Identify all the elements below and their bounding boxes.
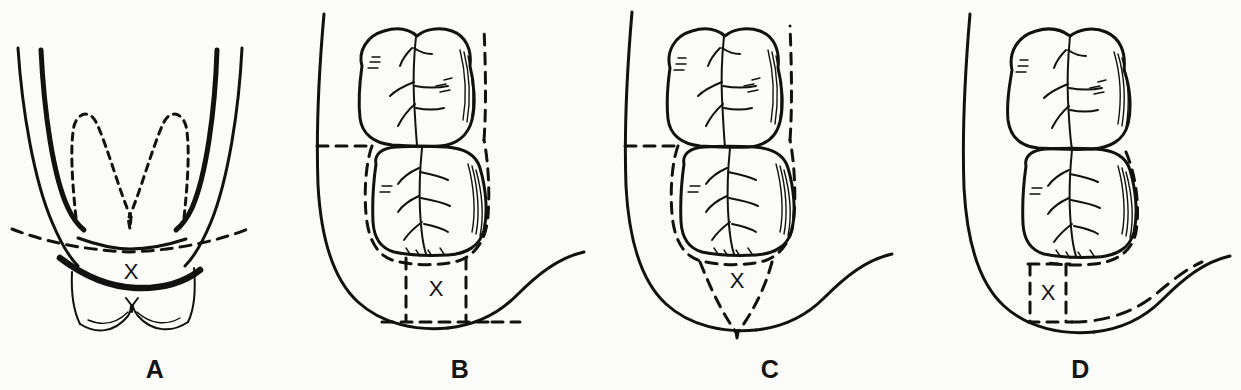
second-molar-cusp-shade-mesial (368, 57, 380, 68)
second-molar-fissure-branch-1 (708, 48, 740, 66)
panel-c: X C (610, 0, 930, 390)
mandible-inner-border-left (41, 50, 84, 230)
mandible-inner-border-right (176, 50, 217, 230)
panel-label-a: A (0, 357, 310, 382)
panel-d-artwork: X (963, 14, 1230, 333)
second-molar-cusp-shade-distal (744, 78, 760, 92)
third-molar-cusp-shade-mesial (1030, 188, 1042, 194)
second-molar-cusp-shade-mesial (674, 58, 686, 70)
third-molar-cusp-shade-mesial (380, 186, 392, 192)
panel-a-artwork: X (12, 48, 248, 330)
mandible-inferior-buccal-border (448, 252, 584, 328)
third-molar-buccal-shading (468, 164, 482, 236)
second-molar-central-fissure (414, 36, 417, 145)
second-molar-fissure-branch-3 (706, 104, 752, 126)
panel-label-c: C (610, 357, 930, 382)
third-molar-fissure-branch-1 (706, 168, 756, 184)
third-molar-fissure-branch-3 (712, 222, 756, 240)
third-molar-central-fissure (728, 148, 734, 254)
third-molar-outline (1023, 148, 1136, 257)
third-molar-cusp-shade-mesial (688, 186, 700, 192)
third-molar-central-fissure (420, 148, 426, 254)
second-molar-fissure-branch-3 (1052, 106, 1098, 128)
third-molar-fissure-branch-3 (1054, 224, 1098, 242)
figure-root: X A (0, 0, 1241, 390)
incisor-crown-outline-left (80, 306, 131, 330)
third-molar-fissure-branch-3 (404, 222, 448, 240)
third-molar-fissure-branch-2 (706, 196, 758, 212)
second-molar-central-fissure (722, 36, 725, 147)
panel-d: X D (920, 0, 1241, 390)
third-molar-buccal-shading (1118, 166, 1132, 238)
panel-label-d: D (920, 357, 1241, 382)
bone-marker-x: X (124, 259, 139, 284)
mandible-inferior-buccal-border (756, 254, 892, 330)
third-molar-fissure-branch-2 (398, 196, 450, 212)
bone-marker-x: X (1041, 280, 1056, 305)
incisor-block-left (72, 272, 80, 324)
panel-label-b: B (300, 357, 620, 382)
third-molar-buccal-shading (776, 164, 790, 236)
bone-removal-wedge-apex (736, 332, 738, 338)
panel-a: X A (0, 0, 310, 390)
panel-b-artwork: X (317, 14, 584, 329)
second-molar-cusp-shade-mesial (1016, 60, 1028, 72)
second-molar-dashed-buccal-line (790, 26, 792, 140)
second-molar-cusp-shade-distal (436, 78, 452, 92)
third-molar-fissure-branch-1 (398, 168, 448, 184)
third-molar-outline (681, 146, 794, 255)
mandible-inferior-buccal-border (1094, 256, 1230, 332)
mandible-outer-border-left (18, 48, 78, 266)
panel-b: X B (300, 0, 620, 390)
third-molar-outline (373, 146, 486, 255)
panel-c-artwork: X (625, 12, 892, 338)
impacted-root-outline-left (72, 114, 131, 218)
third-molar-central-fissure (1070, 150, 1076, 256)
second-molar-buccal-shading (1114, 52, 1128, 128)
impacted-root-outline-right (129, 114, 188, 218)
third-molar-fissure-branch-1 (1048, 170, 1098, 186)
second-molar-fissure-branch-1 (400, 48, 432, 66)
impacted-root-apex (128, 217, 131, 229)
second-molar-fissure-branch-3 (398, 104, 444, 126)
second-molar-dashed-buccal-line (484, 28, 486, 140)
bone-marker-x: X (730, 268, 745, 293)
second-molar-fissure-branch-1 (1054, 50, 1086, 68)
second-molar-fissure-branch-2 (1044, 84, 1102, 98)
second-molar-fissure-branch-2 (698, 82, 756, 96)
bone-marker-x: X (429, 276, 444, 301)
third-molar-fissure-branch-2 (1048, 198, 1100, 214)
incisor-midline-notch (126, 298, 138, 312)
second-molar-cusp-shade-distal (1090, 80, 1106, 94)
inferior-border-dashed-line (1072, 262, 1202, 322)
second-molar-fissure-branch-2 (390, 82, 448, 96)
